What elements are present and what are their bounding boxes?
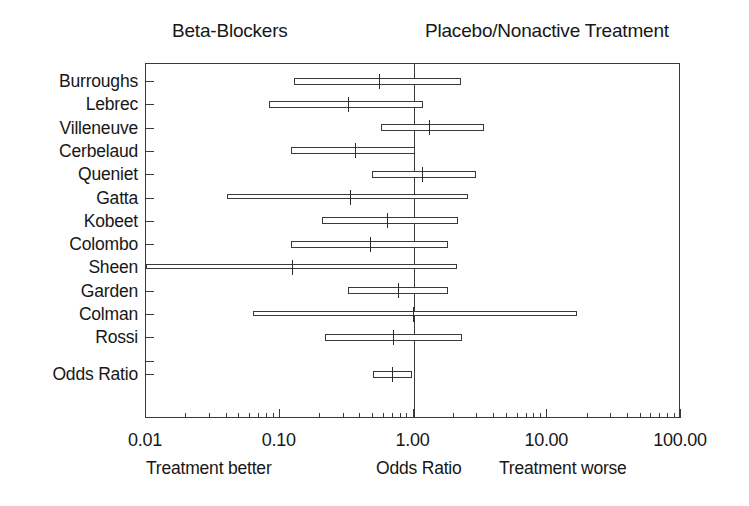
study-label-sheen: Sheen [88,259,138,277]
point-estimate-marker [429,120,430,135]
study-label-queniet: Queniet [78,166,138,184]
confidence-interval-bar [227,194,468,199]
x-axis-minor-tick [587,413,588,418]
study-label-colman: Colman [79,306,138,324]
y-axis-tick [145,244,154,245]
x-axis-minor-tick [185,413,186,418]
x-axis-minor-tick [517,413,518,418]
summary-point-estimate [392,367,393,382]
point-estimate-marker [398,283,399,298]
study-label-cerbelaud: Cerbelaud [59,143,138,161]
y-axis-tick [145,361,154,362]
x-axis-minor-tick [383,413,384,418]
summary-row-label: Odds Ratio [52,366,138,384]
x-axis-minor-tick [238,413,239,418]
x-axis-tick-label: 10.00 [524,430,568,451]
x-axis-tick-label: 0.10 [262,430,296,451]
x-axis-minor-tick [640,413,641,418]
point-estimate-marker [422,167,423,182]
y-axis-tick [145,221,154,222]
x-axis-major-tick [145,409,146,418]
confidence-interval-bar [291,147,415,154]
study-label-colombo: Colombo [69,236,138,254]
x-axis-minor-tick [627,413,628,418]
point-estimate-marker [350,190,351,205]
study-label-kobeet: Kobeet [84,213,138,231]
study-label-villeneuve: Villeneuve [60,120,138,138]
confidence-interval-bar [322,217,458,224]
axis-annotation-center: Odds Ratio [376,458,462,479]
y-axis-tick [145,151,154,152]
forest-plot-figure: Beta-Blockers Placebo/Nonactive Treatmen… [0,0,749,506]
y-axis-tick [145,314,154,315]
x-axis-minor-tick [493,413,494,418]
y-axis-tick [145,104,154,105]
x-axis-minor-tick [610,413,611,418]
x-axis-major-tick [413,409,414,418]
y-axis-tick [145,81,154,82]
study-label-burroughs: Burroughs [59,73,138,91]
x-axis-minor-tick [453,413,454,418]
x-axis-minor-tick [343,413,344,418]
confidence-interval-bar [294,78,461,85]
x-axis-minor-tick [526,413,527,418]
y-axis-tick [145,128,154,129]
x-axis-minor-tick [392,413,393,418]
point-estimate-marker [292,260,293,275]
confidence-interval-bar [269,101,423,108]
x-axis-minor-tick [226,413,227,418]
x-axis-minor-tick [650,413,651,418]
x-axis-major-tick [546,409,547,418]
point-estimate-marker [387,213,388,228]
point-estimate-marker [379,74,380,89]
point-estimate-marker [413,307,414,322]
x-axis-minor-tick [266,413,267,418]
axis-annotation-right: Treatment worse [499,458,627,479]
x-axis-minor-tick [249,413,250,418]
x-axis-minor-tick [406,413,407,418]
group-label-left: Beta-Blockers [172,20,288,42]
point-estimate-marker [393,330,394,345]
study-label-lebrec: Lebrec [86,96,138,114]
point-estimate-marker [370,237,371,252]
study-label-garden: Garden [81,283,138,301]
x-axis-major-tick [680,409,681,418]
x-axis-major-tick [279,409,280,418]
point-estimate-marker [348,97,349,112]
x-axis-minor-tick [533,413,534,418]
y-axis-tick [145,174,154,175]
confidence-interval-bar [372,171,476,178]
y-axis-tick [145,198,154,199]
x-axis-minor-tick [674,413,675,418]
x-axis-minor-tick [540,413,541,418]
x-axis-minor-tick [506,413,507,418]
x-axis-minor-tick [258,413,259,418]
x-axis-minor-tick [273,413,274,418]
confidence-interval-bar [381,124,484,131]
x-axis-minor-tick [209,413,210,418]
x-axis-minor-tick [476,413,477,418]
x-axis-minor-tick [372,413,373,418]
group-label-right: Placebo/Nonactive Treatment [425,20,669,42]
study-label-rossi: Rossi [95,329,138,347]
axis-annotation-left: Treatment better [146,458,272,479]
confidence-interval-bar [146,264,457,269]
y-axis-tick [145,374,154,375]
y-axis-tick [145,337,154,338]
x-axis-tick-label: 100.00 [653,430,706,451]
x-axis-minor-tick [319,413,320,418]
point-estimate-marker [355,143,356,158]
x-axis-minor-tick [667,413,668,418]
confidence-interval-bar [253,311,577,316]
study-label-gatta: Gatta [96,190,138,208]
x-axis-tick-label: 1.00 [396,430,430,451]
x-axis-tick-label: 0.01 [128,430,162,451]
x-axis-minor-tick [659,413,660,418]
study-labels-column: BurroughsLebrecVilleneuveCerbelaudQuenie… [0,63,138,418]
y-axis-tick [145,291,154,292]
x-axis-minor-tick [359,413,360,418]
x-axis-minor-tick [400,413,401,418]
